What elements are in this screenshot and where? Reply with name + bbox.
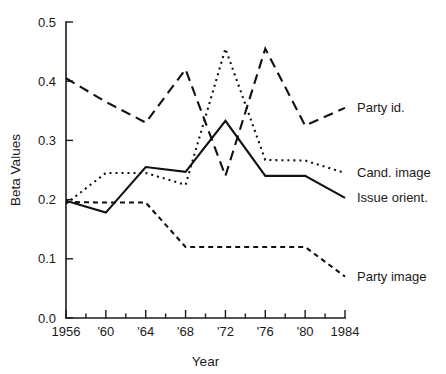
- x-axis-title: Year: [192, 354, 220, 369]
- x-tick-label: '68: [177, 324, 194, 339]
- y-tick-label: 0.2: [38, 192, 56, 207]
- x-axis-tick-labels: 1956'60'64'68'72'76'801984: [52, 324, 360, 339]
- legend-label-party-id: Party id.: [357, 100, 405, 115]
- x-axis-ticks: [66, 310, 345, 318]
- x-axis: 1956'60'64'68'72'76'801984: [52, 310, 360, 339]
- x-tick-label: '76: [257, 324, 274, 339]
- series-lines: [66, 49, 345, 277]
- beta-values-line-chart: 0.00.10.20.30.40.5 1956'60'64'68'72'76'8…: [0, 0, 446, 374]
- y-tick-label: 0.4: [38, 74, 56, 89]
- x-tick-label: '80: [297, 324, 314, 339]
- y-tick-label: 0.5: [38, 15, 56, 30]
- series-line-party-id: [66, 49, 345, 176]
- y-tick-label: 0.3: [38, 133, 56, 148]
- x-tick-label: 1956: [52, 324, 81, 339]
- legend-label-party-image: Party image: [357, 269, 426, 284]
- series-line-issue-orient: [66, 121, 345, 213]
- chart-figure: 0.00.10.20.30.40.5 1956'60'64'68'72'76'8…: [0, 0, 446, 374]
- x-tick-label: '64: [137, 324, 154, 339]
- y-axis-tick-labels: 0.00.10.20.30.40.5: [38, 15, 56, 326]
- x-tick-label: 1984: [331, 324, 360, 339]
- legend-label-issue-orient: Issue orient.: [357, 190, 428, 205]
- y-axis-title: Beta Values: [8, 134, 23, 206]
- y-axis: 0.00.10.20.30.40.5: [38, 15, 73, 326]
- series-line-cand-image: [66, 49, 345, 204]
- legend: Party id.Cand. imageIssue orient.Party i…: [357, 100, 431, 284]
- y-tick-label: 0.1: [38, 251, 56, 266]
- x-tick-label: '60: [97, 324, 114, 339]
- legend-label-cand-image: Cand. image: [357, 165, 431, 180]
- series-line-party-image: [66, 202, 345, 277]
- y-axis-ticks: [66, 22, 73, 318]
- x-tick-label: '72: [217, 324, 234, 339]
